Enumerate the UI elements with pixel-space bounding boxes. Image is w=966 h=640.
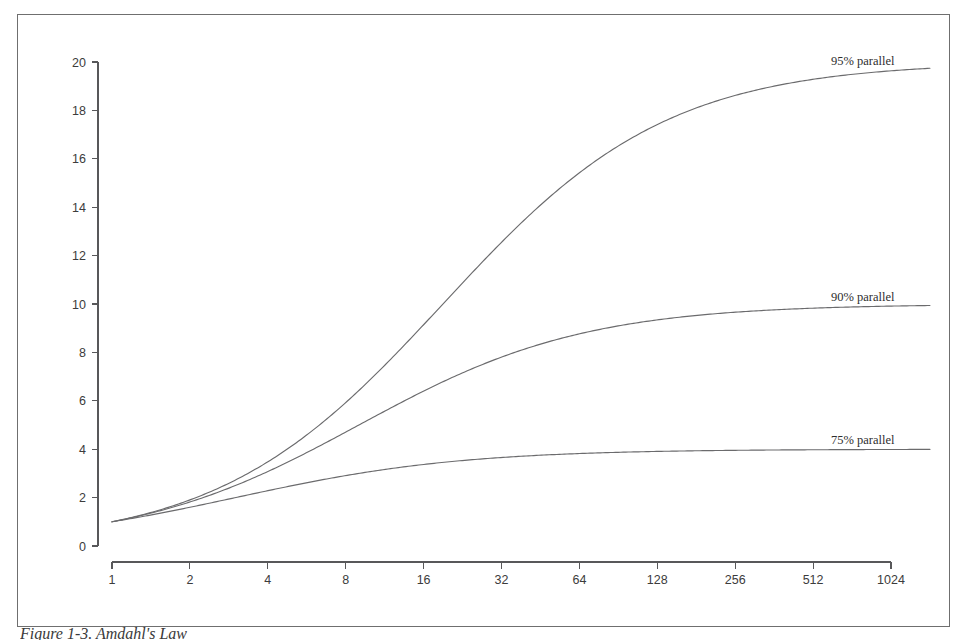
x-tick-label: 1024 <box>877 573 905 587</box>
figure-page: 02468101214161820 1248163264128256512102… <box>0 0 966 640</box>
y-tick-label: 14 <box>72 201 86 215</box>
series-label-group: 95% parallel90% parallel75% parallel <box>831 54 895 447</box>
y-tick-label: 18 <box>72 104 86 118</box>
y-tick-label: 10 <box>72 298 86 312</box>
x-tick-label: 128 <box>647 573 668 587</box>
y-tick-label: 20 <box>72 56 86 70</box>
x-tick-label: 4 <box>264 573 271 587</box>
y-tick-label: 6 <box>79 394 86 408</box>
series-line-0.95 <box>112 68 930 522</box>
figure-caption: Figure 1-3. Amdahl's Law <box>20 624 520 640</box>
amdahls-law-chart: 02468101214161820 1248163264128256512102… <box>17 14 950 627</box>
x-tick-label: 16 <box>417 573 431 587</box>
x-tick-label: 32 <box>495 573 509 587</box>
x-tick-label: 64 <box>572 573 586 587</box>
y-tick-label: 0 <box>79 540 86 554</box>
series-group <box>112 68 930 522</box>
x-axis: 12481632641282565121024 <box>109 562 905 587</box>
y-axis: 02468101214161820 <box>72 56 98 554</box>
x-tick-group: 12481632641282565121024 <box>109 562 905 587</box>
x-tick-label: 8 <box>342 573 349 587</box>
y-tick-label: 4 <box>79 443 86 457</box>
x-tick-label: 1 <box>109 573 116 587</box>
series-label: 75% parallel <box>831 433 895 447</box>
x-tick-label: 512 <box>803 573 824 587</box>
y-tick-label: 2 <box>79 491 86 505</box>
y-tick-label: 8 <box>79 346 86 360</box>
series-label: 90% parallel <box>831 290 895 304</box>
series-label: 95% parallel <box>831 54 895 68</box>
y-tick-label: 12 <box>72 249 86 263</box>
series-line-0.9 <box>112 305 930 521</box>
y-tick-group: 02468101214161820 <box>72 56 98 554</box>
x-tick-label: 256 <box>725 573 746 587</box>
y-tick-label: 16 <box>72 152 86 166</box>
x-tick-label: 2 <box>186 573 193 587</box>
